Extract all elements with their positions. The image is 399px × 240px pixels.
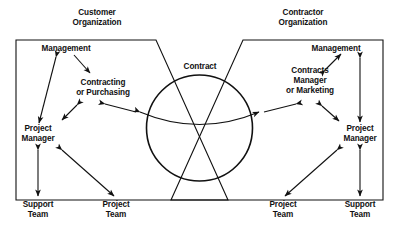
contract-circle	[147, 75, 253, 181]
right-node-project-manager: Project Manager	[328, 124, 392, 144]
right-node-management: Management	[288, 44, 384, 54]
left-projectmanager-projectteam-arrow	[62, 150, 114, 196]
right-node-support-team: Support Team	[328, 200, 392, 220]
left-node-contracting-or-purchasing: Contracting or Purchasing	[60, 78, 146, 98]
right-contractsmanager-to-contract-arrow	[264, 104, 296, 112]
left-management-to-contracting-arrow	[74, 55, 90, 73]
left-node-project-manager: Project Manager	[6, 124, 70, 144]
right-org-heading: Contractor Organization	[248, 8, 358, 28]
left-node-support-team: Support Team	[6, 200, 70, 220]
left-node-management: Management	[18, 44, 114, 54]
left-org-heading: Customer Organization	[42, 8, 152, 28]
diagram-canvas: Customer Organization Contractor Organiz…	[0, 0, 399, 240]
contract-exchange-arrow	[140, 112, 259, 125]
left-contracting-to-contract-arrow	[105, 104, 136, 112]
right-node-project-team: Project Team	[253, 200, 313, 220]
left-node-project-team: Project Team	[86, 200, 146, 220]
left-contracting-to-projectmanager-arrow	[62, 105, 77, 120]
contract-label: Contract	[170, 62, 230, 72]
right-projectmanager-projectteam-arrow	[285, 150, 337, 196]
left-management-projectmanager-arrow	[39, 57, 56, 123]
right-node-contracts-manager-or-marketing: Contracts Manager or Marketing	[267, 66, 353, 96]
right-contractsmanager-to-projectmanager-arrow	[322, 106, 339, 121]
